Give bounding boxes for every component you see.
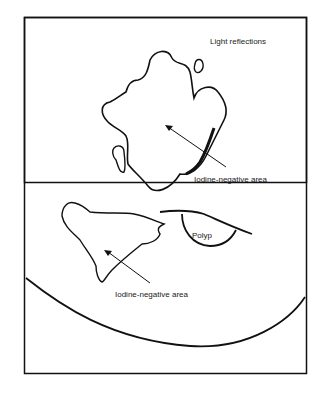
lower-iodine-negative-label: Iodine-negative area bbox=[115, 290, 188, 299]
colon-wall-curve bbox=[26, 278, 305, 346]
satellite-lesion-left bbox=[113, 146, 125, 172]
lower-iodine-negative-lesion bbox=[62, 203, 164, 282]
upper-iodine-negative-lesion bbox=[102, 51, 226, 190]
polyp bbox=[182, 214, 236, 246]
endoscopy-lesion-diagram: Light reflections Iodine-negative area P… bbox=[0, 0, 321, 396]
upper-iodine-negative-label: Iodine-negative area bbox=[194, 175, 267, 184]
satellite-lesion-top bbox=[194, 60, 203, 73]
lower-arrow-head bbox=[104, 250, 112, 256]
polyp-label: Polyp bbox=[192, 231, 213, 240]
diagram-frame-lower bbox=[25, 18, 307, 374]
lesion-shadow-edge bbox=[186, 128, 214, 174]
light-reflections-label: Light reflections bbox=[210, 37, 266, 46]
